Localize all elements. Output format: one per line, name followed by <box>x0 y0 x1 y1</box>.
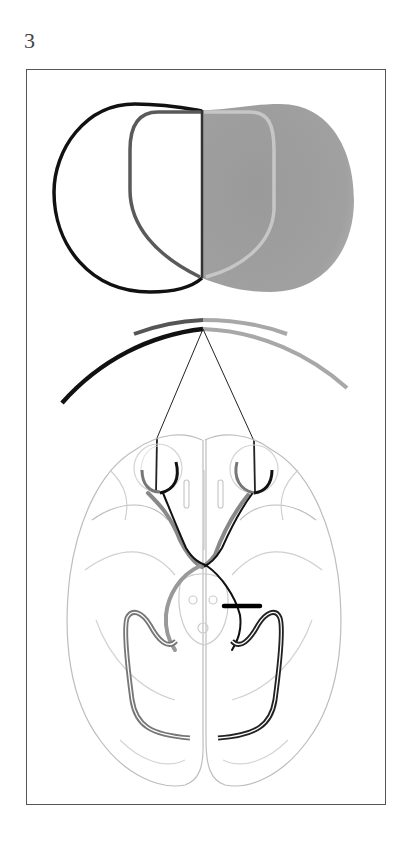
right-optic-nerve-gray <box>202 495 248 567</box>
arc-outer-left-dark <box>62 329 203 403</box>
left-optic-radiation <box>126 612 190 738</box>
left-eye <box>134 444 182 493</box>
left-optic-tract-gray <box>166 566 200 650</box>
right-field-shaded <box>202 104 354 292</box>
visual-field <box>54 104 354 292</box>
left-field-inner-contour <box>130 112 202 277</box>
visual-pathway-diagram <box>0 0 406 855</box>
left-optic-nerve-dark <box>163 493 241 650</box>
right-optic-nerve-dark <box>205 494 252 566</box>
brain-outline <box>67 435 341 786</box>
arc-outer-right-light <box>203 329 347 388</box>
arc-inner-right-light <box>203 320 287 334</box>
right-optic-radiation <box>218 612 281 738</box>
